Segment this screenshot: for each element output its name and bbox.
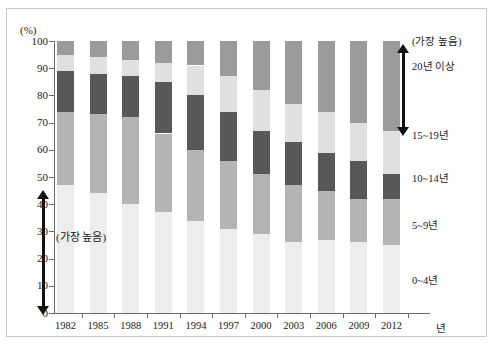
y-axis-tick-label-wrap: 70 — [16, 117, 48, 128]
left-annotation-note: (가장 높음) — [56, 228, 106, 244]
y-axis-tick-label: 80 — [22, 90, 48, 101]
bar-segment — [122, 60, 139, 76]
y-axis-tick — [49, 95, 54, 96]
bar-segment — [350, 199, 367, 243]
stacked-bar — [285, 41, 302, 313]
y-axis-tick — [49, 150, 54, 151]
bar-segment — [90, 74, 107, 115]
y-axis-tick — [49, 68, 54, 69]
bar-segment — [383, 174, 400, 198]
bar-segment — [253, 174, 270, 234]
left-range-arrow — [37, 190, 50, 315]
bar-segment — [350, 242, 367, 313]
bar-segment — [318, 153, 335, 191]
bar-segment — [383, 199, 400, 245]
legend-item-label: 10~14년 — [412, 170, 449, 185]
right-range-arrow — [397, 44, 410, 136]
legend-item-label: 0~4년 — [412, 272, 438, 287]
arrow-head-down — [397, 127, 409, 136]
bar-segment — [285, 41, 302, 104]
bar-segment — [122, 204, 139, 313]
stacked-bar — [350, 41, 367, 313]
stacked-bar — [155, 41, 172, 313]
x-axis-tick — [245, 313, 246, 318]
x-axis-tick — [82, 313, 83, 318]
bar-segment — [90, 193, 107, 313]
y-axis-line — [54, 41, 55, 314]
bar-segment — [285, 104, 302, 142]
bar-segment — [318, 41, 335, 112]
bar-segment — [90, 41, 107, 57]
x-axis-tick — [277, 313, 278, 318]
bar-segment — [90, 57, 107, 73]
bar-segment — [253, 234, 270, 313]
bar-segment — [122, 76, 139, 117]
bar-segment — [253, 131, 270, 175]
bar-segment — [285, 142, 302, 186]
bar-segment — [220, 41, 237, 76]
bar-segment — [57, 112, 74, 185]
x-axis-line — [54, 313, 430, 314]
arrow-shaft — [402, 50, 405, 130]
bar-segment — [285, 185, 302, 242]
bar-segment — [187, 41, 204, 65]
x-axis-tick — [147, 313, 148, 318]
chart-plot-area: (%) 1009080706050403020100 1982198519881… — [0, 0, 495, 354]
x-axis-tick-label: 2012 — [372, 320, 412, 331]
y-axis-tick — [49, 177, 54, 178]
y-axis-tick-label: 100 — [22, 36, 48, 47]
y-axis-tick-label: 60 — [22, 144, 48, 155]
bar-segment — [350, 123, 367, 161]
y-axis-tick-label-wrap: 60 — [16, 144, 48, 155]
bar-segment — [253, 41, 270, 90]
legend-item-label: 15~19년 — [412, 127, 449, 142]
y-axis-tick-label: 90 — [22, 63, 48, 74]
bar-segment — [383, 131, 400, 175]
bar-segment — [155, 212, 172, 313]
stacked-bar — [220, 41, 237, 313]
stacked-bar — [122, 41, 139, 313]
bar-segment — [318, 191, 335, 240]
legend-top-note: (가장 높음) — [412, 33, 462, 48]
bar-segment — [220, 229, 237, 313]
bar-segment — [187, 66, 204, 96]
bar-segment — [155, 82, 172, 134]
legend-item-label: 5~9년 — [412, 217, 438, 232]
bar-segment — [187, 150, 204, 221]
bar-segment — [57, 55, 74, 71]
stacked-bar — [57, 41, 74, 313]
y-axis-tick-label-wrap: 80 — [16, 90, 48, 101]
x-axis-tick — [375, 313, 376, 318]
x-axis-tick — [343, 313, 344, 318]
y-axis-tick-label-wrap: 100 — [16, 36, 48, 47]
bar-segment — [122, 41, 139, 60]
stacked-bar — [90, 41, 107, 313]
stacked-bar — [187, 41, 204, 313]
bar-segment — [187, 221, 204, 313]
y-axis-tick — [49, 41, 54, 42]
y-axis-tick — [49, 123, 54, 124]
bar-segment — [318, 240, 335, 313]
stacked-bar — [318, 41, 335, 313]
x-axis-title: 년 — [436, 320, 446, 335]
y-axis-tick-label-wrap: 50 — [16, 172, 48, 183]
x-axis-tick — [114, 313, 115, 318]
bar-segment — [220, 76, 237, 111]
y-axis-tick-label-wrap: 90 — [16, 63, 48, 74]
bar-segment — [220, 161, 237, 229]
bar-segment — [220, 112, 237, 161]
bar-segment — [187, 95, 204, 149]
arrow-head-down — [37, 306, 49, 315]
x-axis-tick — [180, 313, 181, 318]
bar-segment — [90, 114, 107, 193]
bar-segment — [318, 112, 335, 153]
bar-segment — [57, 41, 74, 55]
bar-segment — [350, 41, 367, 123]
x-axis-tick — [408, 313, 409, 318]
bar-segment — [57, 185, 74, 313]
bar-segment — [122, 117, 139, 204]
arrow-shaft — [42, 196, 45, 309]
y-axis-tick-label: 70 — [22, 117, 48, 128]
bar-segment — [57, 71, 74, 112]
bar-segment — [155, 41, 172, 63]
